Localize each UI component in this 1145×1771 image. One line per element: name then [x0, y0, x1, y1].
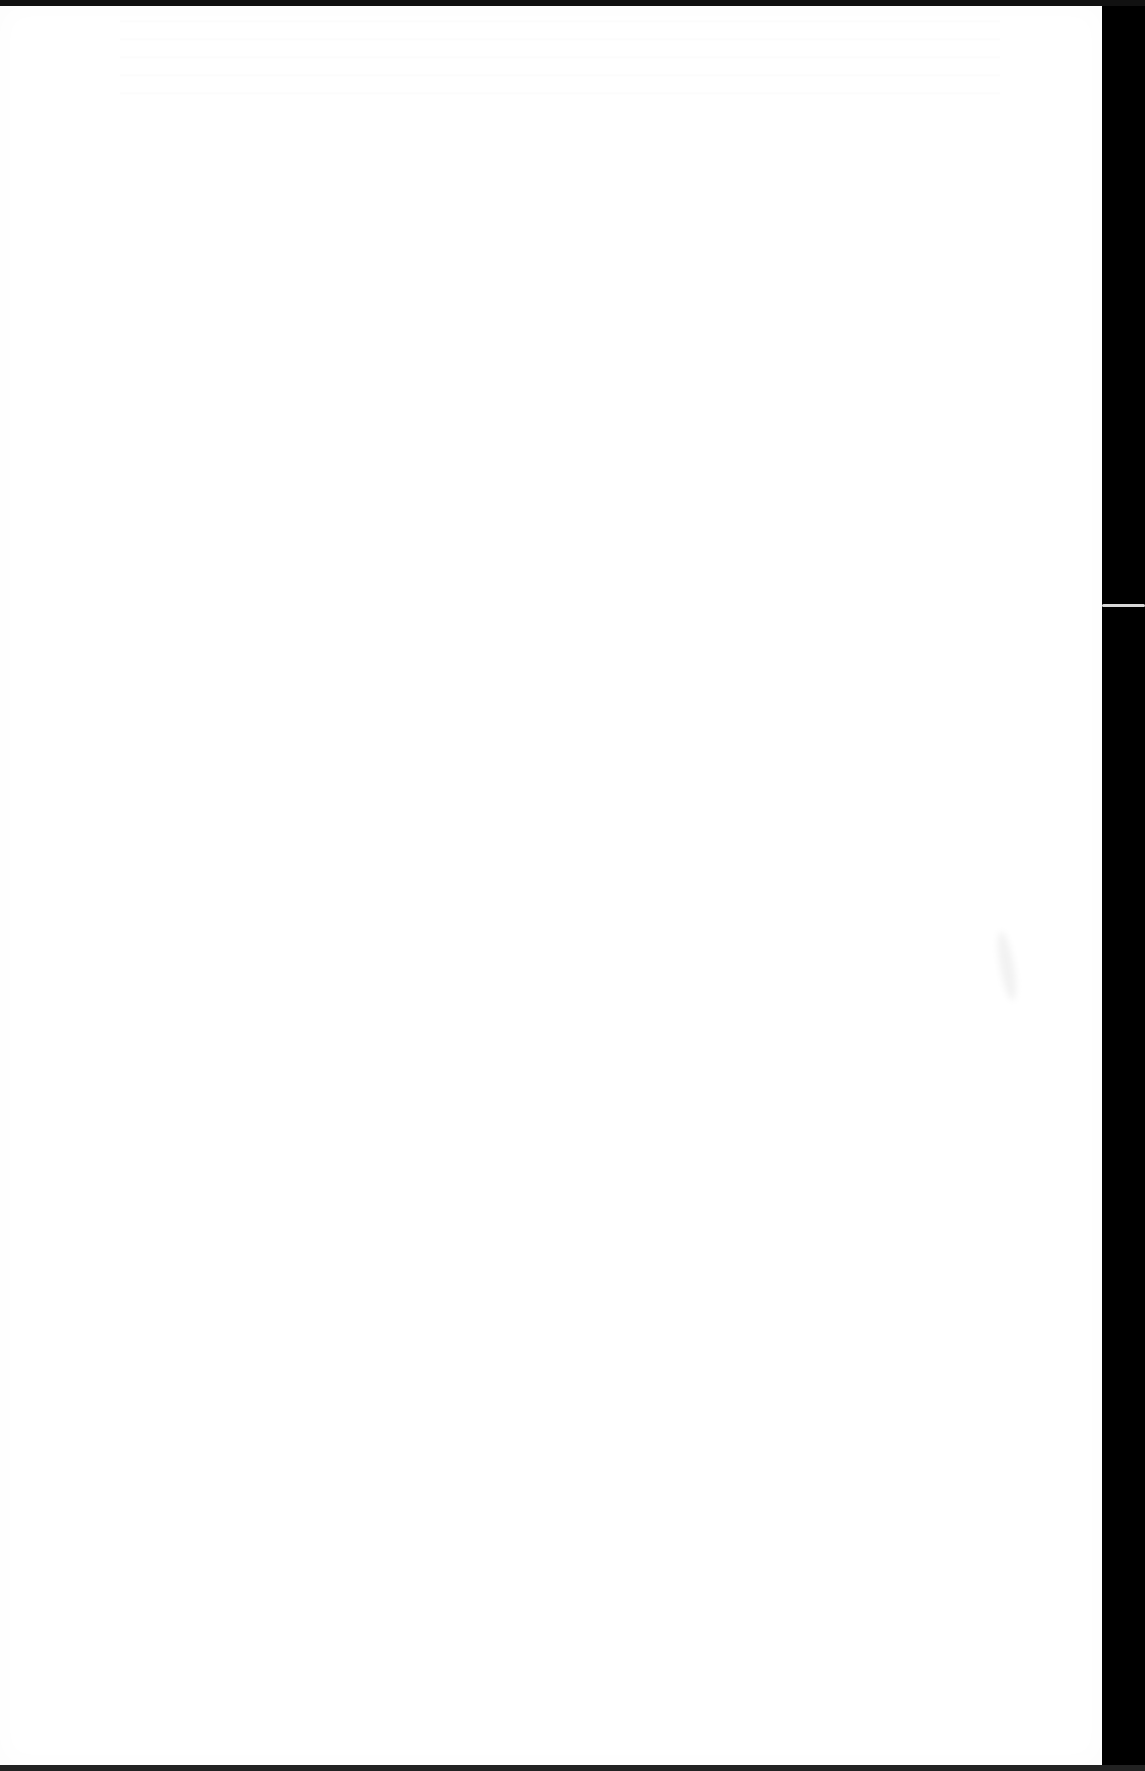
paper-smudge	[994, 930, 1020, 1001]
scanned-document	[0, 0, 1145, 1771]
scan-bottom-border	[0, 1765, 1145, 1771]
paper-edge-tear	[1102, 604, 1145, 607]
bleed-through-artifact	[120, 14, 1000, 104]
blank-page	[0, 6, 1102, 1765]
